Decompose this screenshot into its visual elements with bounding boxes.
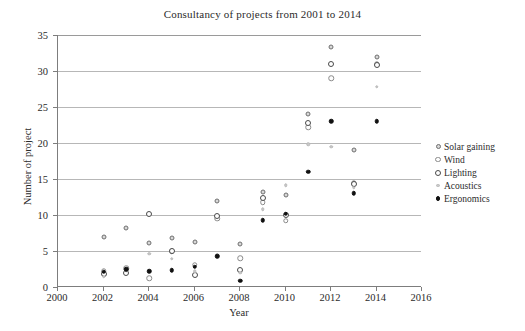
data-point xyxy=(101,270,106,275)
data-point xyxy=(214,213,220,219)
data-point xyxy=(352,186,356,190)
y-axis-tick-label: 15 xyxy=(22,174,48,185)
x-axis-tick-mark xyxy=(330,287,331,291)
data-point xyxy=(169,248,175,254)
legend-item-label: Ergonomics xyxy=(444,194,490,204)
x-axis-tick-mark xyxy=(421,287,422,291)
marker-glyph xyxy=(435,157,441,163)
data-point xyxy=(146,276,152,282)
data-point xyxy=(374,62,380,68)
data-point xyxy=(307,143,311,147)
data-point xyxy=(169,236,174,241)
legend-marker-icon xyxy=(432,184,444,188)
plot-area xyxy=(57,35,421,287)
data-point xyxy=(306,112,311,117)
data-point xyxy=(102,275,106,279)
x-axis-tick-label: 2004 xyxy=(128,292,168,303)
legend-marker-icon xyxy=(432,144,444,149)
chart-title: Consultancy of projects from 2001 to 201… xyxy=(0,8,525,20)
x-axis-title: Year xyxy=(57,307,421,318)
data-point xyxy=(305,120,311,126)
data-point xyxy=(238,271,242,275)
legend-marker-icon xyxy=(432,196,444,201)
data-point xyxy=(215,254,220,259)
chart-container: Consultancy of projects from 2001 to 201… xyxy=(0,0,525,331)
data-point xyxy=(146,211,152,217)
x-axis-tick-label: 2016 xyxy=(401,292,441,303)
gridline xyxy=(58,215,421,216)
gridline xyxy=(58,179,421,180)
data-point xyxy=(351,148,356,153)
data-point xyxy=(283,211,288,216)
data-point xyxy=(192,239,197,244)
y-axis-tick-label: 20 xyxy=(22,138,48,149)
legend-marker-icon xyxy=(432,170,444,176)
data-point xyxy=(238,278,243,283)
data-point xyxy=(329,119,334,124)
legend-item-label: Wind xyxy=(444,155,465,165)
legend-item-wind[interactable]: Wind xyxy=(432,153,495,166)
gridline xyxy=(58,251,421,252)
marker-glyph xyxy=(435,170,441,176)
y-axis-tick-label: 35 xyxy=(22,30,48,41)
x-axis-tick-mark xyxy=(103,287,104,291)
data-point xyxy=(352,191,357,196)
x-axis-tick-label: 2012 xyxy=(310,292,350,303)
x-axis-tick-mark xyxy=(57,287,58,291)
data-point xyxy=(306,170,311,175)
data-point xyxy=(328,61,334,67)
x-axis-tick-mark xyxy=(239,287,240,291)
gridline xyxy=(58,107,421,108)
legend-marker-icon xyxy=(432,157,444,163)
legend-item-lighting[interactable]: Lighting xyxy=(432,166,495,179)
legend-item-label: Acoustics xyxy=(444,181,481,191)
data-point xyxy=(261,218,266,223)
x-axis-tick-label: 2014 xyxy=(356,292,396,303)
legend-item-label: Solar gaining xyxy=(444,142,495,152)
legend-item-ergonomics[interactable]: Ergonomics xyxy=(432,192,495,205)
data-point xyxy=(283,192,288,197)
x-axis-tick-mark xyxy=(285,287,286,291)
data-point xyxy=(284,184,288,188)
data-point xyxy=(101,234,106,239)
legend-item-solar-gaining[interactable]: Solar gaining xyxy=(432,140,495,153)
gridline xyxy=(58,143,421,144)
data-point xyxy=(329,145,333,149)
x-axis-tick-mark xyxy=(148,287,149,291)
y-axis-tick-label: 5 xyxy=(22,246,48,257)
x-axis-tick-label: 2000 xyxy=(37,292,77,303)
data-point xyxy=(375,85,379,89)
y-axis-tick-label: 0 xyxy=(22,282,48,293)
data-point xyxy=(261,207,265,211)
data-point xyxy=(260,189,265,194)
data-point xyxy=(193,269,197,273)
data-point xyxy=(147,269,152,274)
data-point xyxy=(238,241,243,246)
x-axis-tick-mark xyxy=(194,287,195,291)
x-axis-tick-label: 2006 xyxy=(174,292,214,303)
x-axis-tick-label: 2002 xyxy=(83,292,123,303)
data-point xyxy=(170,268,175,273)
data-point xyxy=(374,119,379,124)
x-axis-tick-label: 2008 xyxy=(219,292,259,303)
marker-glyph xyxy=(436,196,441,201)
data-point xyxy=(283,218,289,224)
data-point xyxy=(124,267,129,272)
y-axis-tick-label: 10 xyxy=(22,210,48,221)
marker-glyph xyxy=(436,184,440,188)
data-point xyxy=(147,252,151,256)
data-point xyxy=(329,45,334,50)
x-axis-tick-mark xyxy=(376,287,377,291)
legend-item-label: Lighting xyxy=(444,168,477,178)
data-point xyxy=(147,241,152,246)
gridline xyxy=(58,35,421,36)
gridline xyxy=(58,71,421,72)
chart-legend: Solar gainingWindLightingAcousticsErgono… xyxy=(432,140,495,205)
x-axis-tick-label: 2010 xyxy=(265,292,305,303)
legend-item-acoustics[interactable]: Acoustics xyxy=(432,179,495,192)
y-axis-tick-label: 30 xyxy=(22,66,48,77)
marker-glyph xyxy=(436,144,441,149)
y-axis-tick-label: 25 xyxy=(22,102,48,113)
data-point xyxy=(328,75,334,81)
data-point xyxy=(192,265,197,270)
